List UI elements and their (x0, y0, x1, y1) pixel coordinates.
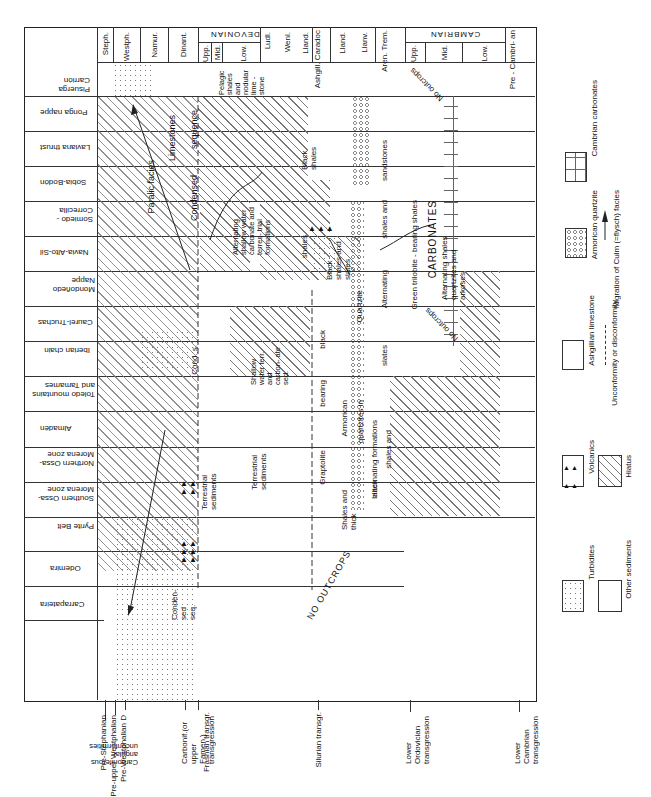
legend-swatch-hiatus (598, 455, 622, 487)
legend-label-migration: Migration of Culm (=flysch) facies (612, 190, 634, 308)
legend-swatch-turbidites (562, 580, 584, 612)
legend-label-hiatus: Hiatus (624, 455, 633, 478)
legend-swatch-unconformity (605, 325, 606, 365)
legend-label-unconformity: Unconformity or disconformity (610, 300, 632, 406)
legend-label-turbidites: Turbidites (587, 545, 596, 580)
legend-swatch-ashgillian (562, 340, 584, 370)
legend-label-other: Other sediments (624, 540, 646, 599)
legend-label-volcanics: Volcanics (587, 440, 596, 474)
legend-swatch-other (598, 580, 622, 612)
volcanic-triangle-icon: ▲▲▲▲ (563, 464, 579, 489)
legend-swatch-volcanics: ▲▲▲▲ (562, 455, 584, 487)
